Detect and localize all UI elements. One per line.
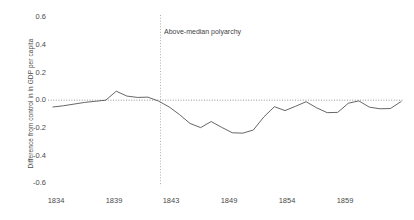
data-series-line [53, 91, 401, 133]
plot-area [0, 0, 414, 220]
chart-container: Difference from control in ln GDP per ca… [0, 0, 414, 220]
